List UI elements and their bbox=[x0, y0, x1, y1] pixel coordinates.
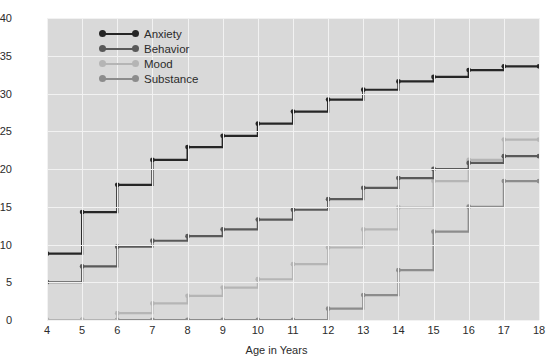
gridline-vertical bbox=[504, 18, 505, 320]
x-tick-label: 11 bbox=[278, 324, 308, 336]
x-tick-label: 18 bbox=[524, 324, 553, 336]
x-tick-label: 8 bbox=[173, 324, 203, 336]
x-tick-label: 6 bbox=[102, 324, 132, 336]
y-tick-label: 0 bbox=[0, 314, 12, 326]
chart-figure: Cumulative Percent Age in Years 05101520… bbox=[0, 0, 553, 363]
x-tick-label: 12 bbox=[313, 324, 343, 336]
x-tick-label: 17 bbox=[489, 324, 519, 336]
legend-swatch-icon bbox=[99, 73, 139, 85]
y-tick-label: 40 bbox=[0, 12, 12, 24]
gridline-vertical bbox=[469, 18, 470, 320]
y-tick-label: 20 bbox=[0, 163, 12, 175]
gridline-vertical bbox=[398, 18, 399, 320]
x-tick-label: 4 bbox=[32, 324, 62, 336]
legend-label: Anxiety bbox=[144, 28, 182, 40]
legend-swatch-icon bbox=[99, 58, 139, 70]
y-tick-label: 35 bbox=[0, 50, 12, 62]
x-tick-label: 10 bbox=[243, 324, 273, 336]
legend-label: Mood bbox=[144, 58, 173, 70]
legend-item-anxiety[interactable]: Anxiety bbox=[99, 26, 198, 41]
x-tick-label: 16 bbox=[454, 324, 484, 336]
legend-label: Substance bbox=[144, 73, 198, 85]
legend-label: Behavior bbox=[144, 43, 189, 55]
x-tick-label: 14 bbox=[383, 324, 413, 336]
gridline-vertical bbox=[328, 18, 329, 320]
y-tick-label: 30 bbox=[0, 88, 12, 100]
gridline-vertical bbox=[258, 18, 259, 320]
gridline-vertical bbox=[82, 18, 83, 320]
plot-area: AnxietyBehaviorMoodSubstance bbox=[47, 18, 539, 320]
x-tick-label: 5 bbox=[67, 324, 97, 336]
y-tick-label: 15 bbox=[0, 201, 12, 213]
gridline-vertical bbox=[539, 18, 540, 320]
gridline-vertical bbox=[434, 18, 435, 320]
gridline-vertical bbox=[223, 18, 224, 320]
x-tick-label: 9 bbox=[208, 324, 238, 336]
gridline-vertical bbox=[363, 18, 364, 320]
legend-item-behavior[interactable]: Behavior bbox=[99, 41, 198, 56]
gridline-horizontal bbox=[47, 320, 539, 321]
legend-item-substance[interactable]: Substance bbox=[99, 71, 198, 86]
y-tick-label: 10 bbox=[0, 239, 12, 251]
gridline-vertical bbox=[293, 18, 294, 320]
legend: AnxietyBehaviorMoodSubstance bbox=[95, 24, 204, 88]
x-tick-label: 7 bbox=[137, 324, 167, 336]
gridline-vertical bbox=[47, 18, 48, 320]
y-tick-label: 25 bbox=[0, 125, 12, 137]
legend-swatch-icon bbox=[99, 43, 139, 55]
y-tick-label: 5 bbox=[0, 276, 12, 288]
legend-swatch-icon bbox=[99, 28, 139, 40]
x-tick-label: 15 bbox=[419, 324, 449, 336]
legend-item-mood[interactable]: Mood bbox=[99, 56, 198, 71]
x-tick-label: 13 bbox=[348, 324, 378, 336]
x-axis-title: Age in Years bbox=[0, 344, 553, 356]
